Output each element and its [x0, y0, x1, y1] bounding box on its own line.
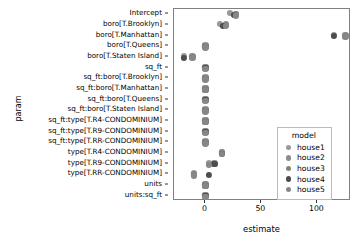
- legend: model house1house2house3house4house5: [277, 127, 332, 200]
- y-tick-mark: [165, 13, 168, 14]
- y-tick-mark: [165, 162, 168, 163]
- y-tick-label: sq_ft:boro[T.Queens]: [88, 95, 162, 102]
- data-point: [202, 98, 208, 104]
- y-tick-label: sq_ft:type[T.R4-CONDOMINIUM]: [48, 116, 162, 123]
- x-axis-ticks: 050100: [173, 200, 350, 212]
- y-tick-label: type[T.R4-CONDOMINIUM]: [68, 148, 162, 155]
- y-tick-mark: [165, 152, 168, 153]
- data-point: [202, 130, 208, 136]
- x-axis-title: estimate: [173, 224, 350, 234]
- y-tick-mark: [165, 98, 168, 99]
- legend-item-house2[interactable]: house2: [283, 153, 325, 164]
- legend-item-house3[interactable]: house3: [283, 163, 325, 174]
- y-tick-label: sq_ft:boro[T.Staten Island]: [68, 106, 162, 113]
- y-axis-tick-labels: Interceptboro[T.Brooklyn]boro[T.Manhatta…: [0, 8, 168, 200]
- legend-label: house3: [297, 164, 325, 173]
- y-tick-label: sq_ft:type[T.RR-CONDOMINIUM]: [48, 138, 162, 145]
- y-tick-label: sq_ft: [145, 63, 162, 70]
- x-tick-mark: [260, 200, 261, 203]
- y-tick-label: type[T.RR-CONDOMINIUM]: [68, 170, 162, 177]
- data-point: [202, 66, 208, 72]
- data-point: [342, 34, 348, 40]
- x-tick-label: 100: [309, 204, 324, 213]
- y-tick-mark: [165, 141, 168, 142]
- y-tick-label: sq_ft:type[T.R9-CONDOMINIUM]: [48, 127, 162, 134]
- y-tick-label: sq_ft:boro[T.Manhattan]: [76, 84, 162, 91]
- data-point: [202, 76, 208, 82]
- y-tick-mark: [165, 34, 168, 35]
- y-tick-label: Intercept: [130, 10, 162, 17]
- data-point: [202, 183, 208, 189]
- legend-label: house1: [297, 143, 325, 152]
- legend-item-house4[interactable]: house4: [283, 174, 325, 185]
- y-tick-mark: [165, 24, 168, 25]
- chart-root: param Interceptboro[T.Brooklyn]boro[T.Ma…: [0, 0, 359, 244]
- legend-key-dot-icon: [283, 153, 294, 164]
- data-point: [202, 44, 208, 50]
- data-point: [191, 172, 197, 178]
- data-point: [202, 87, 208, 93]
- data-point: [206, 172, 212, 178]
- x-tick-label: 0: [202, 204, 207, 213]
- data-point: [202, 194, 208, 200]
- legend-label: house2: [297, 153, 325, 162]
- legend-key-dot-icon: [283, 174, 294, 185]
- y-tick-mark: [165, 184, 168, 185]
- legend-title: model: [283, 131, 325, 140]
- legend-label: house5: [297, 185, 325, 194]
- legend-label: house4: [297, 175, 325, 184]
- y-tick-label: type[T.R9-CONDOMINIUM]: [68, 159, 162, 166]
- data-point: [202, 140, 208, 146]
- y-tick-label: boro[T.Staten Island]: [87, 52, 162, 59]
- y-tick-mark: [165, 77, 168, 78]
- y-tick-label: units:sq_ft: [125, 191, 162, 198]
- data-point: [206, 162, 212, 168]
- x-tick-label: 50: [255, 204, 265, 213]
- data-point: [331, 33, 337, 39]
- data-point: [202, 108, 208, 114]
- data-point: [223, 23, 229, 29]
- y-tick-label: boro[T.Queens]: [107, 42, 162, 49]
- x-tick-mark: [204, 200, 205, 203]
- data-point: [233, 12, 239, 18]
- data-point: [202, 119, 208, 125]
- legend-item-house1[interactable]: house1: [283, 142, 325, 153]
- legend-key-dot-icon: [283, 142, 294, 153]
- x-tick-mark: [316, 200, 317, 203]
- y-tick-mark: [165, 56, 168, 57]
- y-tick-mark: [165, 88, 168, 89]
- y-tick-label: boro[T.Brooklyn]: [103, 20, 162, 27]
- y-tick-mark: [165, 130, 168, 131]
- data-point: [189, 55, 195, 61]
- y-tick-mark: [165, 120, 168, 121]
- y-tick-mark: [165, 45, 168, 46]
- y-tick-label: boro[T.Manhattan]: [96, 31, 162, 38]
- data-point: [219, 151, 225, 157]
- y-tick-mark: [165, 109, 168, 110]
- data-point: [211, 161, 217, 167]
- y-tick-mark: [165, 66, 168, 67]
- y-tick-label: units: [144, 180, 162, 187]
- legend-key-dot-icon: [283, 163, 294, 174]
- data-point: [180, 54, 186, 60]
- legend-key-dot-icon: [283, 184, 294, 195]
- y-tick-mark: [165, 173, 168, 174]
- y-tick-mark: [165, 194, 168, 195]
- y-tick-label: sq_ft:boro[T.Brooklyn]: [83, 74, 162, 81]
- legend-item-house5[interactable]: house5: [283, 184, 325, 195]
